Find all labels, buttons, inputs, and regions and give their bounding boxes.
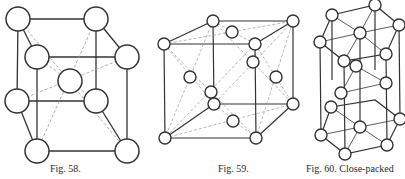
atom — [394, 113, 405, 125]
atom-mid — [350, 60, 362, 72]
atom — [326, 9, 338, 21]
atom — [325, 101, 337, 113]
figure-58-bcc — [5, 7, 139, 163]
atom — [5, 89, 29, 113]
atom — [369, 0, 381, 11]
atom — [338, 55, 350, 67]
atom — [249, 38, 261, 50]
atom-center — [58, 69, 82, 93]
atom — [115, 45, 139, 69]
atom-center — [354, 121, 366, 133]
atom-face — [247, 56, 259, 68]
caption-fig-58: Fig. 58. — [50, 163, 81, 174]
atom-face — [226, 26, 238, 38]
atom-mid — [380, 77, 392, 89]
atom — [115, 139, 139, 163]
atom-center — [354, 27, 366, 39]
atom-face — [205, 86, 217, 98]
atom — [380, 48, 392, 60]
caption-fig-60: Fig. 60. Close-packed — [306, 163, 394, 174]
atom — [315, 129, 327, 141]
caption-fig-59: Fig. 59. — [218, 163, 249, 174]
figure-59-fcc — [158, 15, 299, 144]
atom-face — [270, 71, 282, 83]
atom — [287, 98, 299, 110]
atom-face — [184, 71, 196, 83]
atom — [25, 139, 49, 163]
atom — [158, 38, 170, 50]
atom — [314, 36, 326, 48]
crystal-lattice-figures — [0, 0, 405, 179]
atom — [208, 98, 220, 110]
atom — [250, 132, 262, 144]
atom — [84, 89, 108, 113]
atom — [159, 132, 171, 144]
atom-face — [227, 115, 239, 127]
atom — [287, 15, 299, 27]
atom — [84, 7, 108, 31]
atom — [6, 7, 30, 31]
atom — [207, 15, 219, 27]
atom — [381, 139, 393, 151]
atom-mid — [335, 87, 347, 99]
figure-60-hcp — [314, 0, 405, 160]
atom — [393, 19, 405, 31]
atom — [25, 45, 49, 69]
atom — [339, 148, 351, 160]
